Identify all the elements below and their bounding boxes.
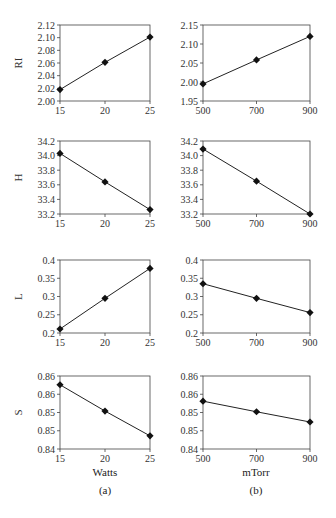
y-tick-label: 2.15 bbox=[181, 20, 199, 31]
y-tick-label: 0.25 bbox=[181, 309, 199, 320]
y-tick-label: 2.00 bbox=[38, 96, 56, 107]
x-tick-label: 500 bbox=[196, 218, 211, 229]
data-point-marker bbox=[101, 407, 108, 414]
y-tick-label: 33.4 bbox=[181, 194, 199, 205]
chart-H-a-2: 33.233.433.633.834.034.2152025H bbox=[12, 136, 155, 230]
data-point-marker bbox=[56, 325, 63, 332]
data-point-marker bbox=[199, 145, 206, 152]
x-tick-label: 20 bbox=[100, 337, 110, 348]
x-tick-label: 25 bbox=[145, 453, 155, 464]
y-tick-label: 34.2 bbox=[181, 136, 199, 147]
y-tick-label: 0.2 bbox=[43, 328, 56, 339]
y-tick-label: 0.35 bbox=[181, 273, 199, 284]
y-tick-label: 0.86 bbox=[38, 389, 56, 400]
figure: 2.002.022.042.062.082.102.12152025RI1.95… bbox=[0, 0, 336, 518]
x-tick-label: 500 bbox=[196, 105, 211, 116]
x-tick-label: 500 bbox=[196, 337, 211, 348]
chart-panel-b-3: 33.233.433.633.834.034.2500700900 bbox=[181, 136, 318, 230]
x-tick-label: 500 bbox=[196, 453, 211, 464]
plot-frame bbox=[60, 141, 150, 214]
y-axis-label: H bbox=[12, 173, 24, 181]
data-point-marker bbox=[101, 178, 108, 185]
y-tick-label: 0.3 bbox=[43, 291, 56, 302]
x-tick-label: 20 bbox=[100, 218, 110, 229]
y-tick-label: 0.85 bbox=[181, 407, 199, 418]
y-tick-label: 2.02 bbox=[38, 83, 56, 94]
y-tick-label: 2.12 bbox=[38, 20, 56, 31]
data-point-marker bbox=[146, 206, 153, 213]
y-tick-label: 33.6 bbox=[38, 179, 56, 190]
x-tick-label: 700 bbox=[249, 453, 264, 464]
chart-RI-a-0: 2.002.022.042.062.082.102.12152025RI bbox=[12, 20, 155, 117]
y-tick-label: 2.08 bbox=[38, 45, 56, 56]
y-tick-label: 34.0 bbox=[181, 150, 199, 161]
y-tick-label: 33.8 bbox=[181, 165, 199, 176]
x-tick-label: 700 bbox=[249, 218, 264, 229]
y-tick-label: 0.86 bbox=[38, 371, 56, 382]
y-tick-label: 33.6 bbox=[181, 179, 199, 190]
data-point-marker bbox=[253, 408, 260, 415]
data-point-marker bbox=[56, 381, 63, 388]
chart-panel-b-1: 1.952.002.052.102.15500700900 bbox=[181, 20, 318, 117]
y-tick-label: 2.04 bbox=[38, 70, 56, 81]
x-tick-label: 900 bbox=[303, 105, 318, 116]
data-point-marker bbox=[101, 295, 108, 302]
chart-panel-b-7: 0.840.850.850.860.86500700900 bbox=[181, 371, 318, 465]
data-point-marker bbox=[306, 210, 313, 217]
x-tick-label: 700 bbox=[249, 337, 264, 348]
data-point-marker bbox=[56, 86, 63, 93]
y-tick-label: 34.0 bbox=[38, 150, 56, 161]
data-point-marker bbox=[253, 295, 260, 302]
y-tick-label: 0.85 bbox=[38, 425, 56, 436]
y-tick-label: 33.2 bbox=[38, 209, 56, 220]
data-point-marker bbox=[146, 265, 153, 272]
x-tick-label: 900 bbox=[303, 453, 318, 464]
x-tick-label: 15 bbox=[55, 337, 65, 348]
y-tick-label: 0.84 bbox=[38, 444, 56, 455]
chart-L-a-4: 0.20.250.30.350.4152025L bbox=[12, 255, 155, 349]
y-tick-label: 2.05 bbox=[181, 58, 199, 69]
y-tick-label: 0.85 bbox=[181, 425, 199, 436]
data-point-marker bbox=[146, 432, 153, 439]
x-tick-label: 700 bbox=[249, 105, 264, 116]
data-point-marker bbox=[253, 178, 260, 185]
chart-panel-b-5: 0.20.250.30.350.4500700900 bbox=[181, 255, 318, 349]
y-tick-label: 0.4 bbox=[43, 255, 56, 266]
x-tick-label: 20 bbox=[100, 453, 110, 464]
y-tick-label: 33.4 bbox=[38, 194, 56, 205]
x-tick-label: 25 bbox=[145, 337, 155, 348]
data-point-marker bbox=[146, 33, 153, 40]
y-axis-label: S bbox=[12, 409, 24, 415]
data-point-marker bbox=[306, 33, 313, 40]
x-tick-label: 900 bbox=[303, 218, 318, 229]
data-point-marker bbox=[253, 56, 260, 63]
x-tick-label: 15 bbox=[55, 105, 65, 116]
data-point-marker bbox=[199, 280, 206, 287]
y-tick-label: 0.3 bbox=[186, 291, 199, 302]
plot-frame bbox=[203, 141, 310, 214]
y-tick-label: 0.25 bbox=[38, 309, 56, 320]
chart-S-a-6: 0.840.850.850.860.86152025S bbox=[12, 371, 155, 465]
data-point-marker bbox=[199, 80, 206, 87]
y-tick-label: 0.35 bbox=[38, 273, 56, 284]
x-tick-label: 15 bbox=[55, 218, 65, 229]
y-tick-label: 0.85 bbox=[38, 407, 56, 418]
y-tick-label: 2.06 bbox=[38, 58, 56, 69]
y-tick-label: 0.4 bbox=[186, 255, 199, 266]
y-tick-label: 2.10 bbox=[38, 32, 56, 43]
y-axis-label: RI bbox=[12, 57, 24, 68]
x-tick-label: 15 bbox=[55, 453, 65, 464]
y-tick-label: 2.10 bbox=[181, 39, 199, 50]
data-point-marker bbox=[306, 418, 313, 425]
x-tick-label: 25 bbox=[145, 218, 155, 229]
y-axis-label: L bbox=[12, 293, 24, 300]
y-tick-label: 0.86 bbox=[181, 371, 199, 382]
data-point-marker bbox=[199, 398, 206, 405]
x-tick-label: 900 bbox=[303, 337, 318, 348]
x-tick-label: 20 bbox=[100, 105, 110, 116]
y-tick-label: 0.86 bbox=[181, 389, 199, 400]
x-tick-label: 25 bbox=[145, 105, 155, 116]
data-point-marker bbox=[306, 309, 313, 316]
y-tick-label: 34.2 bbox=[38, 136, 56, 147]
data-point-marker bbox=[101, 59, 108, 66]
